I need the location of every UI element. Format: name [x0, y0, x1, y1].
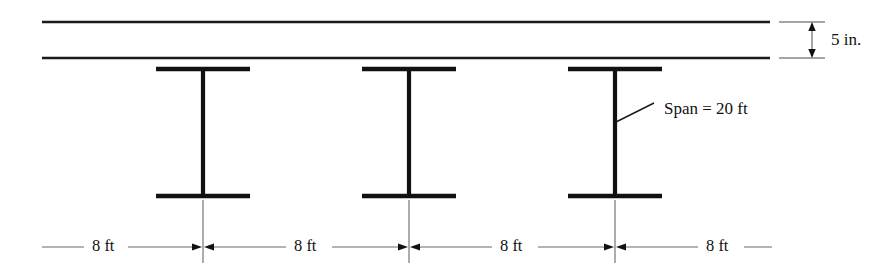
slab-thickness-label: 5 in. [831, 30, 861, 49]
spacing-dimension-chain: 8 ft 8 ft 8 ft 8 ft [42, 200, 772, 263]
spacing-arrowhead-3-right [604, 243, 614, 250]
spacing-label-3: 8 ft [500, 236, 523, 255]
spacing-arrowhead-1-right [192, 243, 202, 250]
steel-beam-1 [156, 69, 250, 196]
span-leader-line [616, 103, 654, 122]
figure-canvas: 5 in. Span = 20 ft 8 ft 8 ft [0, 0, 896, 273]
spacing-arrowhead-2-left [204, 243, 214, 250]
spacing-arrowhead-4-left [616, 243, 626, 250]
steel-beam-2 [362, 69, 456, 196]
thickness-arrowhead-up [808, 22, 815, 31]
span-annotation: Span = 20 ft [616, 99, 748, 122]
spacing-label-2: 8 ft [294, 236, 317, 255]
spacing-label-4: 8 ft [706, 236, 729, 255]
span-label: Span = 20 ft [664, 99, 748, 118]
steel-beam-3 [568, 69, 662, 196]
slab-thickness-dimension: 5 in. [779, 22, 861, 58]
thickness-arrowhead-down [808, 49, 815, 58]
concrete-slab [42, 22, 770, 58]
spacing-arrowhead-3-left [410, 243, 420, 250]
spacing-arrowhead-2-right [398, 243, 408, 250]
engineering-figure: 5 in. Span = 20 ft 8 ft 8 ft [0, 0, 896, 273]
spacing-label-1: 8 ft [92, 236, 115, 255]
